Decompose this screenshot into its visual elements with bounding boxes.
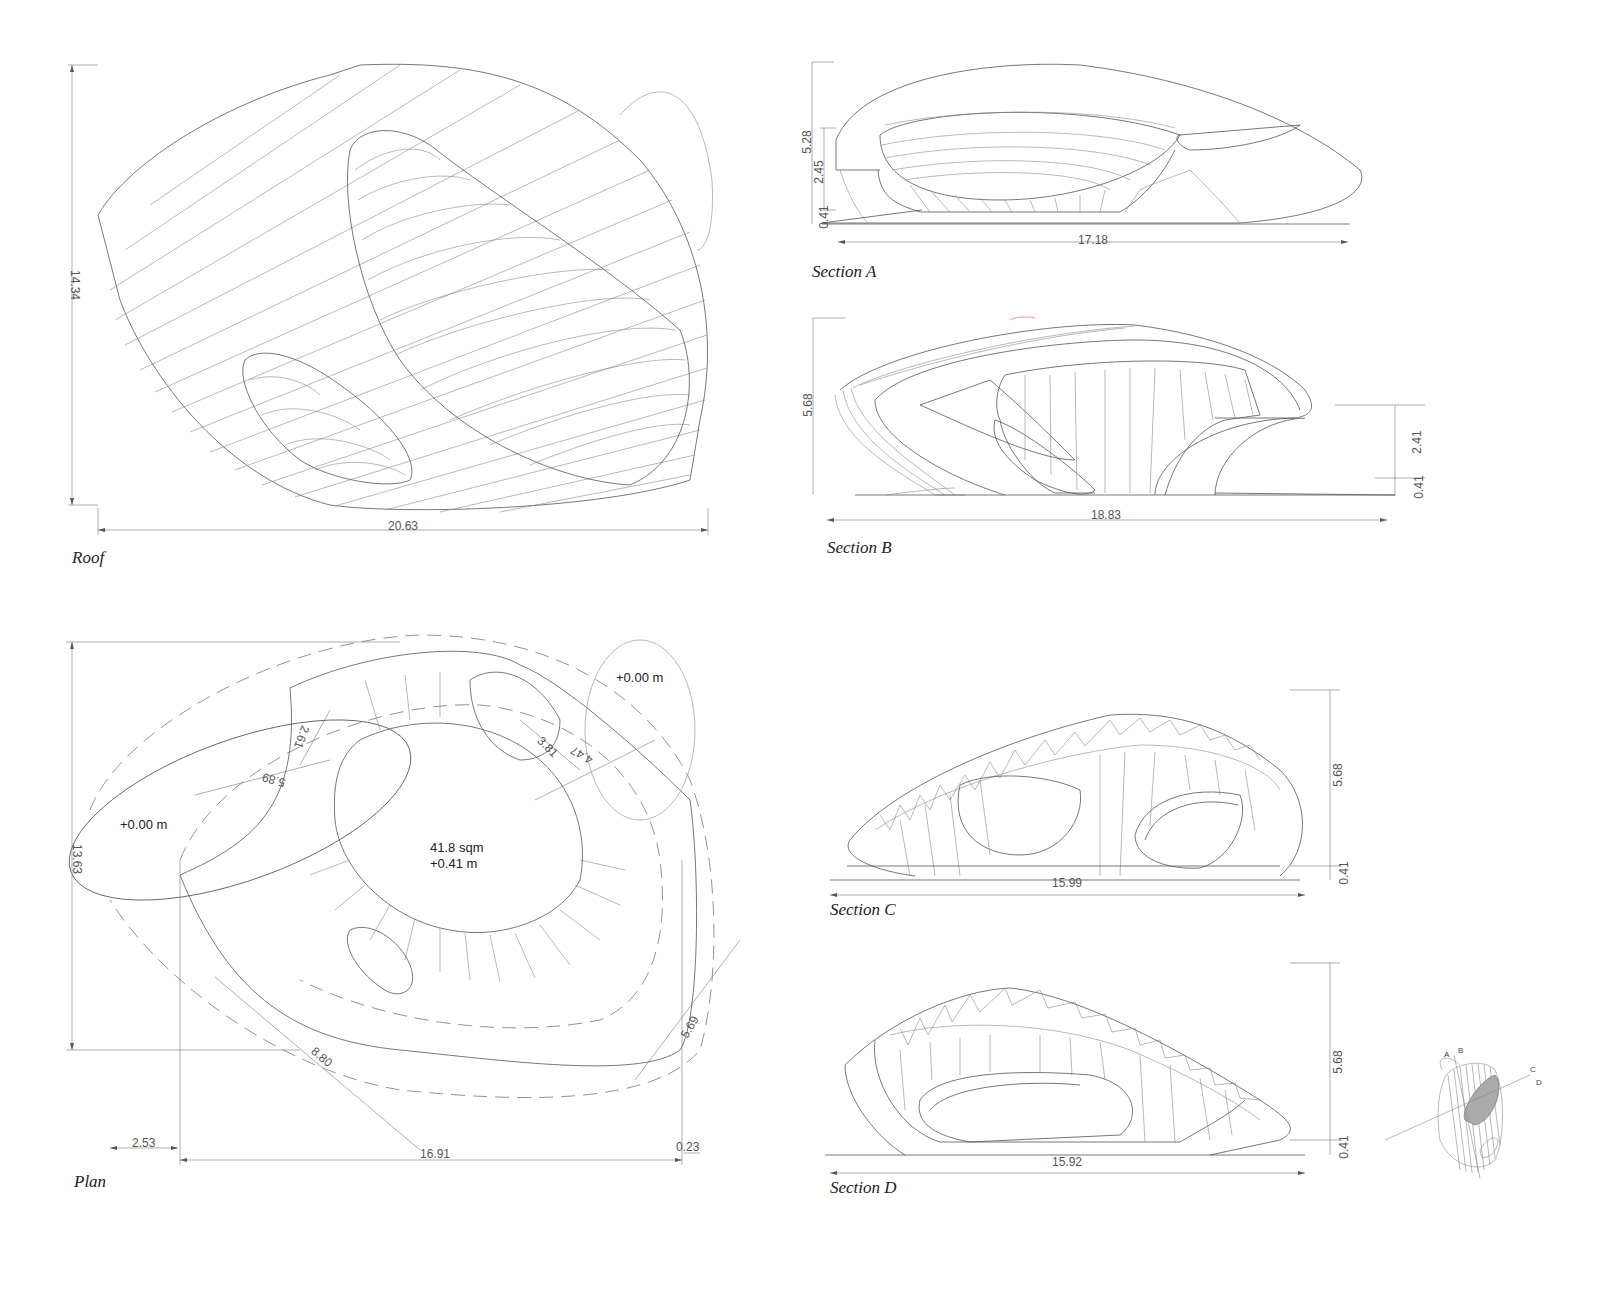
section-c-drawing: 5.68 0.41 15.99 Section C [800, 680, 1380, 940]
section-c-floor-offset: 0.41 [1337, 861, 1351, 884]
plan-height-dim: 13.63 [70, 844, 84, 874]
section-a-opening-height: 2.45 [812, 160, 826, 183]
section-d-total-height: 5.68 [1331, 1050, 1345, 1073]
roof-caption: Roof [72, 548, 104, 568]
key-label-b: B [1458, 1046, 1463, 1055]
roof-height-dim: 14.34 [68, 270, 82, 300]
plan-left-offset-dim: 2.53 [132, 1136, 155, 1150]
plan-right-level: +0.00 m [616, 670, 663, 685]
section-b-linework [795, 310, 1475, 570]
section-b-total-height: 5.68 [801, 393, 815, 416]
plan-left-level: +0.00 m [120, 817, 167, 832]
section-d-caption: Section D [830, 1178, 897, 1198]
section-b-floor-offset: 0.41 [1412, 475, 1426, 498]
section-c-width: 15.99 [1052, 876, 1082, 890]
key-plan: A B C D [1380, 1030, 1550, 1180]
roof-width-dim: 20.63 [388, 519, 418, 533]
section-b-opening-height: 2.41 [1410, 430, 1424, 453]
section-a-caption: Section A [812, 262, 876, 282]
plan-width-dim: 16.91 [420, 1147, 450, 1161]
key-label-c: C [1530, 1065, 1536, 1074]
section-a-floor-offset: 0.41 [817, 205, 831, 228]
section-a-total-height: 5.28 [800, 130, 814, 153]
section-d-floor-offset: 0.41 [1337, 1135, 1351, 1158]
section-c-caption: Section C [830, 900, 896, 920]
plan-drawing: 41.8 sqm +0.41 m +0.00 m +0.00 m 13.63 1… [0, 620, 780, 1240]
plan-linework [0, 620, 780, 1240]
section-a-drawing: 5.28 2.45 0.41 17.18 Section A [780, 40, 1380, 290]
section-a-linework [780, 40, 1380, 290]
key-label-d: D [1536, 1078, 1542, 1087]
section-b-drawing: 5.68 2.41 0.41 18.83 Section B [795, 310, 1475, 570]
plan-area-label: 41.8 sqm [430, 840, 483, 855]
roof-drawing: 14.34 20.63 Roof [0, 0, 760, 580]
plan-right-offset-dim: 0.23 [676, 1140, 699, 1154]
roof-linework [0, 0, 760, 580]
section-d-width: 15.92 [1052, 1155, 1082, 1169]
key-label-a: A [1444, 1050, 1449, 1059]
section-d-drawing: 5.68 0.41 15.92 Section D [800, 950, 1380, 1210]
plan-center-level: +0.41 m [430, 856, 477, 871]
section-d-linework [800, 950, 1380, 1210]
key-plan-linework [1380, 1030, 1550, 1180]
section-c-total-height: 5.68 [1331, 763, 1345, 786]
section-b-width: 18.83 [1091, 508, 1121, 522]
plan-caption: Plan [74, 1172, 106, 1192]
section-b-caption: Section B [827, 538, 892, 558]
section-a-width: 17.18 [1078, 233, 1108, 247]
